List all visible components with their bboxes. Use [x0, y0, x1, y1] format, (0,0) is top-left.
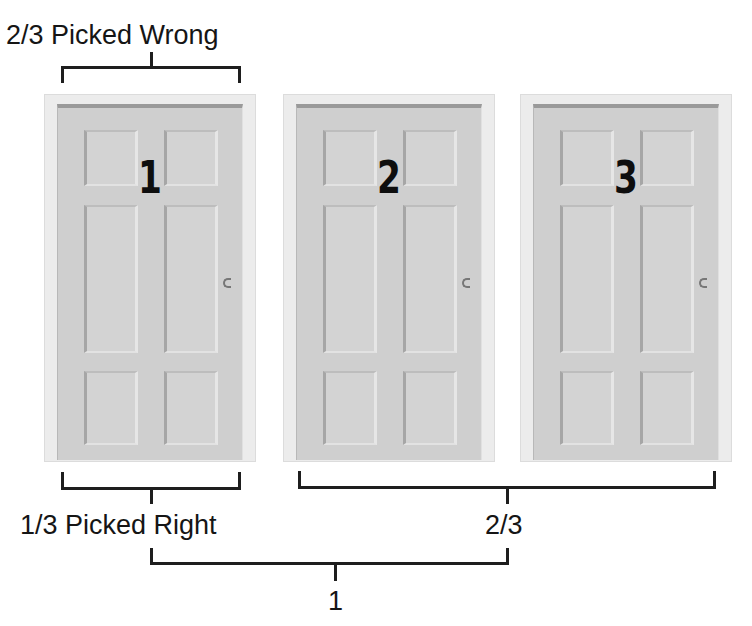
bracket-top-door1 [61, 66, 241, 83]
door-1-panel-bottom-right [164, 371, 218, 445]
bracket-total [150, 548, 509, 565]
door-3-panel-mid-right [640, 205, 694, 353]
door-1-panel-top-right [164, 130, 218, 186]
door-3-panel-top-right [640, 130, 694, 186]
door-2-panel-bottom-right [403, 371, 457, 445]
door-1-panel-top-left [84, 130, 138, 186]
bracket-bottom-doors23 [298, 471, 716, 489]
bracket-bottom-doors23-stem [506, 489, 509, 504]
door-3-panel-mid-left [560, 205, 614, 353]
bracket-bottom-door1-stem [150, 490, 153, 504]
door-2[interactable]: 2 [296, 104, 482, 460]
door-2-panel-bottom-left [323, 371, 377, 445]
bracket-bottom-door1 [61, 472, 241, 490]
door-2-panel-mid-left [323, 205, 377, 353]
label-total-probability: 1 [328, 588, 343, 615]
door-3-panel-bottom-left [560, 371, 614, 445]
door-2-panel-top-right [403, 130, 457, 186]
door-3-panel-top-left [560, 130, 614, 186]
door-frame-3: 3 [520, 94, 732, 462]
door-3-panel-bottom-right [640, 371, 694, 445]
door-number-1: 1 [134, 156, 165, 200]
label-picked-wrong: 2/3 Picked Wrong [6, 22, 219, 49]
door-frame-2: 2 [283, 94, 495, 462]
door-1-knob-icon [223, 278, 231, 288]
door-1-panel-mid-left [84, 205, 138, 353]
door-1-panel-bottom-left [84, 371, 138, 445]
door-2-panel-top-left [323, 130, 377, 186]
label-picked-right: 1/3 Picked Right [20, 512, 217, 539]
door-2-knob-icon [462, 278, 470, 288]
door-number-3: 3 [610, 156, 641, 200]
door-3-knob-icon [699, 278, 707, 288]
door-2-panel-mid-right [403, 205, 457, 353]
door-3[interactable]: 3 [533, 104, 719, 460]
door-1-panel-mid-right [164, 205, 218, 353]
door-frame-1: 1 [44, 94, 256, 462]
door-number-2: 2 [373, 156, 404, 200]
door-1[interactable]: 1 [57, 104, 243, 460]
bracket-total-stem [334, 565, 337, 581]
label-doors23-probability: 2/3 [485, 512, 523, 539]
